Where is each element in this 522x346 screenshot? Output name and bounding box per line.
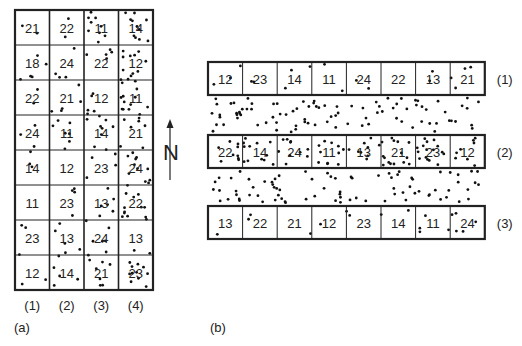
plot-number: 22 (129, 196, 143, 211)
plot-number: 22 (60, 21, 74, 36)
plot-number: 23 (25, 231, 39, 246)
plot-number: 22 (391, 72, 405, 87)
plot-number: 12 (129, 56, 143, 71)
plot-number: 22 (25, 91, 39, 106)
plot-number: 21 (25, 21, 39, 36)
plot-number: 23 (60, 196, 74, 211)
plot-number: 12 (322, 216, 336, 231)
plot-number: 23 (129, 266, 143, 281)
strip-label: (1) (497, 72, 513, 87)
plot-number: 11 (322, 145, 336, 160)
plot-number: 13 (60, 231, 74, 246)
plot-number: 18 (25, 56, 39, 71)
column-label: (1) (24, 298, 40, 313)
plot-number: 23 (253, 72, 267, 87)
plot-number: 13 (129, 231, 143, 246)
plot-number: 11 (322, 72, 336, 87)
plot-number: 13 (356, 145, 370, 160)
panel-a-grid: 2122111418242212222112112411142114122324… (15, 10, 153, 313)
plot-number: 21 (94, 266, 108, 281)
panel-a-label: (a) (14, 320, 30, 335)
plot-number: 24 (460, 216, 474, 231)
plot-number: 12 (60, 161, 74, 176)
column-label: (2) (59, 298, 75, 313)
plot-number: 24 (94, 231, 108, 246)
north-label: N (163, 140, 179, 165)
strip-label: (2) (497, 145, 513, 160)
column-label: (3) (93, 298, 109, 313)
panel-b-label: (b) (210, 320, 226, 335)
plot-number: 22 (218, 145, 232, 160)
plot-number: 21 (60, 91, 74, 106)
plot-number: 22 (94, 56, 108, 71)
column-label: (4) (128, 298, 144, 313)
plot-number: 21 (460, 72, 474, 87)
plot-number: 14 (25, 161, 39, 176)
plot-number: 11 (129, 91, 143, 106)
plot-number: 24 (287, 145, 301, 160)
plot-number: 13 (94, 196, 108, 211)
plot-number: 11 (426, 216, 440, 231)
plot-number: 14 (94, 126, 108, 141)
plot-number: 13 (426, 72, 440, 87)
plot-number: 21 (129, 126, 143, 141)
plot-number: 12 (25, 266, 39, 281)
plot-number: 24 (129, 161, 143, 176)
plot-number: 12 (460, 145, 474, 160)
north-arrow: N (163, 119, 179, 180)
plot-number: 14 (391, 216, 405, 231)
plot-number: 11 (95, 21, 109, 36)
plot-number: 24 (60, 56, 74, 71)
plot-number: 14 (253, 145, 267, 160)
plot-number: 24 (356, 72, 370, 87)
plot-number: 23 (94, 161, 108, 176)
plot-number: 23 (356, 216, 370, 231)
plot-number: 12 (218, 72, 232, 87)
plot-number: 22 (253, 216, 267, 231)
plot-number: 12 (94, 91, 108, 106)
plot-number: 21 (287, 216, 301, 231)
plot-number: 14 (287, 72, 301, 87)
plot-number: 24 (25, 126, 39, 141)
plot-number: 13 (218, 216, 232, 231)
panel-b-strips: 1223141124221321(1)2214241113212312(2)13… (208, 62, 513, 239)
plot-number: 23 (426, 145, 440, 160)
figure: 2122111418242212222112112411142114122324… (0, 0, 522, 346)
plot-number: 11 (60, 126, 74, 141)
plot-number: 14 (129, 21, 143, 36)
plot-number: 14 (60, 266, 74, 281)
strip-label: (3) (497, 216, 513, 231)
scatter-dots (18, 11, 480, 288)
plot-number: 11 (26, 196, 40, 211)
plot-number: 21 (391, 145, 405, 160)
